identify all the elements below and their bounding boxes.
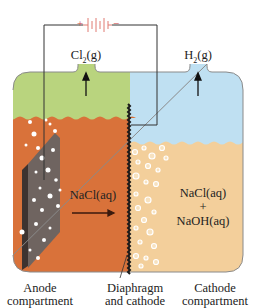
cathode-solution-line1: NaCl(aq) [168,186,238,200]
cathode-gas-region [130,60,254,145]
cathode-compartment-label-2: compartment [175,294,254,308]
anode-gas-region [0,60,130,120]
diaphragm-label-2: and cathode [95,294,175,308]
anode-compartment-label-1: Anode [5,281,75,295]
chlorine-gas-label: Cl2(g) [66,48,106,68]
cathode-compartment-label-1: Cathode [175,281,254,295]
anode-electrode-side [22,164,28,270]
electrolysis-cell-diagram [0,0,254,308]
cathode-solution-line3: NaOH(aq) [168,214,238,228]
diaphragm-cathode [128,104,130,274]
anode-compartment-label-2: compartment [0,294,80,308]
battery-negative-label: − [111,16,121,30]
anode-solution-label: NaCl(aq) [68,188,118,202]
diaphragm-label-1: Diaphragm [95,281,175,295]
hydrogen-gas-label: H2(g) [178,48,218,68]
battery-icon [83,18,112,32]
battery-positive-label: + [75,16,85,30]
cathode-solution-line2: + [168,200,238,214]
cell-container [0,60,254,280]
